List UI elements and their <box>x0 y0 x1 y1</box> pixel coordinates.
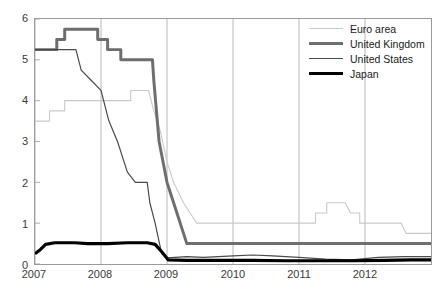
y-tick-5: 5 <box>6 54 28 64</box>
x-tick-2010: 2010 <box>210 268 256 280</box>
y-tick-6: 6 <box>6 13 28 23</box>
legend-label-japan: Japan <box>350 68 379 80</box>
y-axis-tick-labels: 6 5 4 3 2 1 0 <box>4 0 28 294</box>
legend-label-united-kingdom: United Kingdom <box>350 38 425 50</box>
x-tick-2011: 2011 <box>276 268 322 280</box>
legend-item-united-kingdom: United Kingdom <box>308 36 432 51</box>
legend-item-euro-area: Euro area <box>308 21 432 36</box>
chart-legend: Euro area United Kingdom United States J… <box>308 18 432 81</box>
legend-swatch-united-states-icon <box>308 58 344 59</box>
x-tick-2009: 2009 <box>143 268 189 280</box>
x-tick-2008: 2008 <box>77 268 123 280</box>
legend-label-united-states: United States <box>350 53 413 65</box>
legend-swatch-euro-area-icon <box>308 28 344 29</box>
y-tick-4: 4 <box>6 95 28 105</box>
y-tick-1: 1 <box>6 219 28 229</box>
legend-item-united-states: United States <box>308 51 432 66</box>
legend-item-japan: Japan <box>308 66 432 81</box>
legend-swatch-united-kingdom-icon <box>308 42 344 45</box>
y-tick-3: 3 <box>6 136 28 146</box>
x-tick-2012: 2012 <box>342 268 388 280</box>
x-tick-2007: 2007 <box>11 268 57 280</box>
x-axis-tick-labels: 2007 2008 2009 2010 2011 2012 <box>0 268 436 288</box>
y-tick-2: 2 <box>6 178 28 188</box>
legend-swatch-japan-icon <box>308 72 344 75</box>
legend-label-euro-area: Euro area <box>350 23 396 35</box>
policy-rate-line-chart: 6 5 4 3 2 1 0 2007 2008 2009 2010 2011 2… <box>0 0 436 294</box>
